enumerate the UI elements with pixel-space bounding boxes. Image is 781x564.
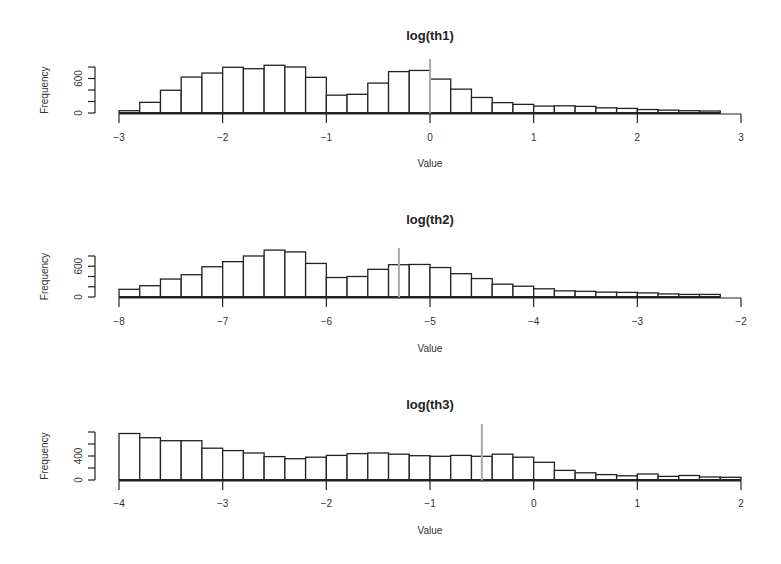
histogram-bar — [554, 470, 575, 480]
histogram-bar — [140, 438, 161, 480]
histogram-bar — [326, 278, 347, 297]
histogram-bar — [430, 456, 451, 480]
x-tick-label: 1 — [635, 498, 641, 509]
x-tick-label: −2 — [217, 132, 229, 143]
histogram-figure: log(th1)−3−2−10123Value0600Frequencylog(… — [0, 0, 781, 564]
x-tick-label: 3 — [738, 132, 744, 143]
histogram-bar — [451, 89, 472, 113]
x-tick-label: −8 — [113, 316, 125, 327]
histogram-bar — [223, 262, 244, 297]
histogram-bar — [347, 277, 368, 298]
histogram-panel-3: log(th3)−4−3−2−1012Value0400Frequency — [39, 397, 744, 536]
histogram-bar — [430, 268, 451, 297]
y-tick-label: 600 — [73, 70, 84, 87]
histogram-bar — [409, 456, 430, 480]
histogram-bar — [264, 457, 285, 480]
y-tick-label: 400 — [73, 447, 84, 464]
x-tick-label: −2 — [321, 498, 333, 509]
histogram-bar — [368, 83, 389, 113]
histogram-bar — [160, 441, 181, 480]
bars — [119, 65, 720, 113]
histogram-bar — [326, 455, 347, 480]
histogram-bar — [160, 90, 181, 113]
histogram-bar — [471, 97, 492, 113]
x-tick-label: −1 — [321, 132, 333, 143]
y-axis-label: Frequency — [39, 253, 50, 300]
x-tick-label: −1 — [424, 498, 436, 509]
histogram-bar — [181, 275, 202, 297]
histogram-bar — [243, 69, 264, 113]
histogram-bar — [119, 434, 140, 481]
histogram-bar — [513, 286, 534, 297]
histogram-bar — [140, 286, 161, 297]
x-tick-label: −3 — [113, 132, 125, 143]
histogram-bar — [430, 79, 451, 113]
x-tick-label: −7 — [217, 316, 229, 327]
histogram-bar — [243, 453, 264, 480]
histogram-bar — [223, 451, 244, 480]
y-axis-label: Frequency — [39, 432, 50, 479]
y-tick-label: 0 — [73, 477, 84, 483]
x-tick-label: 2 — [738, 498, 744, 509]
y-tick-label: 600 — [73, 257, 84, 274]
histogram-bar — [534, 462, 555, 480]
histogram-bar — [285, 67, 306, 113]
histogram-panel-2: log(th2)−8−7−6−5−4−3−2Value0600Frequency — [39, 212, 747, 354]
histogram-bar — [181, 441, 202, 480]
chart-title: log(th1) — [406, 28, 454, 43]
histogram-bar — [471, 279, 492, 297]
x-tick-label: −5 — [424, 316, 436, 327]
histogram-bar — [202, 73, 223, 113]
x-tick-label: 1 — [531, 132, 537, 143]
histogram-bar — [223, 67, 244, 113]
histogram-panels: log(th1)−3−2−10123Value0600Frequencylog(… — [0, 0, 781, 564]
x-tick-label: −4 — [528, 316, 540, 327]
histogram-bar — [285, 459, 306, 480]
histogram-bar — [368, 269, 389, 297]
histogram-bar — [160, 279, 181, 297]
histogram-bar — [451, 274, 472, 297]
x-tick-label: 0 — [427, 132, 433, 143]
x-tick-label: 0 — [531, 498, 537, 509]
histogram-bar — [306, 457, 327, 480]
histogram-panel-1: log(th1)−3−2−10123Value0600Frequency — [39, 28, 744, 169]
x-axis-label: Value — [418, 158, 443, 169]
histogram-bar — [306, 77, 327, 113]
histogram-bar — [513, 457, 534, 480]
x-tick-label: −3 — [217, 498, 229, 509]
histogram-bar — [409, 70, 430, 113]
y-axis-label: Frequency — [39, 66, 50, 113]
histogram-bar — [202, 448, 223, 480]
histogram-bar — [389, 454, 410, 480]
x-tick-label: −4 — [113, 498, 125, 509]
histogram-bar — [492, 284, 513, 297]
histogram-bar — [409, 264, 430, 297]
y-tick-label: 0 — [73, 294, 84, 300]
histogram-bar — [119, 289, 140, 297]
histogram-bar — [181, 77, 202, 113]
histogram-bar — [306, 263, 327, 297]
x-tick-label: 2 — [635, 132, 641, 143]
histogram-bar — [243, 256, 264, 297]
y-tick-label: 0 — [73, 110, 84, 116]
histogram-bar — [389, 72, 410, 113]
histogram-bar — [534, 289, 555, 297]
histogram-bar — [492, 454, 513, 480]
x-tick-label: −6 — [321, 316, 333, 327]
histogram-bar — [368, 453, 389, 480]
histogram-bar — [326, 95, 347, 113]
bars — [119, 250, 720, 297]
histogram-bar — [492, 103, 513, 113]
chart-title: log(th3) — [406, 397, 454, 412]
histogram-bar — [140, 102, 161, 113]
histogram-bar — [264, 65, 285, 113]
x-tick-label: −3 — [632, 316, 644, 327]
x-tick-label: −2 — [735, 316, 747, 327]
x-axis-label: Value — [418, 525, 443, 536]
bars — [119, 434, 741, 481]
histogram-bar — [513, 104, 534, 113]
histogram-bar — [285, 252, 306, 297]
chart-title: log(th2) — [406, 212, 454, 227]
x-axis-label: Value — [418, 343, 443, 354]
histogram-bar — [202, 267, 223, 297]
